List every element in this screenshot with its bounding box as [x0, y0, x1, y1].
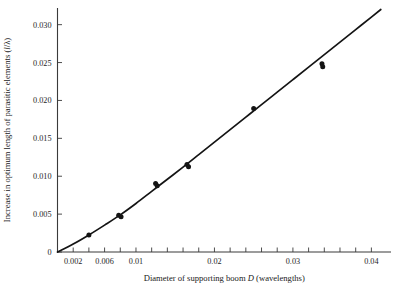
- x-axis-tick-labels: 0.0020.0060.010.020.030.04: [64, 257, 379, 266]
- y-tick-label: 0.030: [33, 21, 51, 30]
- y-axis-caption: Increase in optimum length of parasitic …: [2, 38, 12, 222]
- data-point: [119, 214, 124, 219]
- axis-lines: [58, 8, 392, 252]
- data-point: [251, 106, 256, 111]
- x-tick-label: 0.03: [286, 257, 300, 266]
- x-tick-label: 0.006: [95, 257, 113, 266]
- x-tick-label: 0.04: [364, 257, 378, 266]
- data-point: [186, 164, 191, 169]
- y-tick-label: 0.005: [33, 210, 51, 219]
- y-axis-tick-labels: 00.0050.0100.0150.0200.0250.030: [33, 21, 51, 257]
- data-point: [155, 183, 160, 188]
- y-tick-label: 0.015: [33, 134, 51, 143]
- x-tick-label: 0.02: [207, 257, 221, 266]
- fitted-curve: [58, 10, 381, 252]
- chart-svg: Increase in optimum length of parasitic …: [0, 0, 405, 295]
- chart-figure: Increase in optimum length of parasitic …: [0, 0, 405, 295]
- y-tick-label: 0.025: [33, 59, 51, 68]
- x-axis-caption-text: Diameter of supporting boom D (wavelengt…: [144, 273, 305, 283]
- trend-line: [58, 10, 381, 252]
- x-axis-caption: Diameter of supporting boom D (wavelengt…: [144, 273, 305, 283]
- y-tick-label: 0.020: [33, 96, 51, 105]
- axis-tick-marks: [58, 25, 372, 252]
- x-tick-label: 0.01: [129, 257, 143, 266]
- data-point: [86, 232, 91, 237]
- data-point: [320, 64, 325, 69]
- y-tick-label: 0: [47, 248, 51, 257]
- x-tick-label: 0.002: [64, 257, 82, 266]
- y-axis-caption-text: Increase in optimum length of parasitic …: [2, 38, 12, 222]
- y-tick-label: 0.010: [33, 172, 51, 181]
